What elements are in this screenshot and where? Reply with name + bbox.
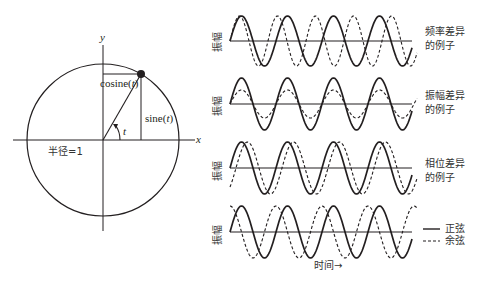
time-axis-label: 时间→: [314, 259, 342, 272]
y-axis-label: y: [100, 31, 105, 43]
wave-panel-2: [230, 78, 417, 130]
legend-cosine-label: 余弦: [445, 234, 465, 247]
sine-text: sine(: [145, 112, 166, 124]
cosine-label: cosine(t): [100, 77, 139, 89]
sine-label: sine(t): [145, 112, 173, 124]
note-line: 相位差异: [425, 157, 479, 171]
cosine-paren: ): [135, 77, 139, 89]
wave-panel-1: [230, 16, 417, 66]
wave-panel-4: [230, 206, 417, 258]
note-line: 频率差异: [425, 25, 479, 39]
amplitude-label-1: 振幅: [209, 32, 224, 52]
angle-arrow-icon: [113, 124, 120, 140]
note-amplitude-difference: 振幅差异 的例子: [425, 89, 479, 117]
note-frequency-difference: 频率差异 的例子: [425, 25, 479, 53]
wave-panel-3: [230, 142, 417, 194]
radius-label: 半径=1: [48, 145, 83, 158]
waveform-panels: [230, 16, 417, 258]
angle-label: t: [123, 125, 126, 137]
amplitude-label-4: 振幅: [209, 225, 224, 245]
unit-circle-diagram: [13, 45, 195, 231]
cosine-text: cosine(: [100, 77, 132, 89]
note-line: 的例子: [425, 171, 479, 185]
note-line: 振幅差异: [425, 89, 479, 103]
figure: y x cosine(t) sine(t) t 半径=1 振幅 振幅 振幅 振幅…: [0, 0, 479, 282]
note-line: 的例子: [425, 103, 479, 117]
diagram-canvas: [0, 0, 479, 282]
amplitude-label-3: 振幅: [209, 161, 224, 181]
note-line: 的例子: [425, 39, 479, 53]
amplitude-label-2: 振幅: [209, 96, 224, 116]
note-phase-difference: 相位差异 的例子: [425, 157, 479, 185]
x-axis-label: x: [196, 133, 201, 145]
sine-paren: ): [169, 112, 173, 124]
